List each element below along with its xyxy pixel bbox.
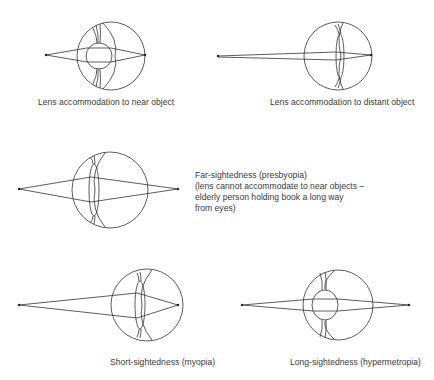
light-rays — [218, 52, 371, 60]
lens-thin — [89, 164, 99, 216]
ciliary-fibers-top — [335, 24, 341, 34]
eye-distant-object — [217, 22, 372, 90]
light-rays — [46, 48, 145, 62]
light-rays — [242, 299, 409, 311]
caption-line: Far-sightedness (presbyopia) — [195, 170, 364, 181]
lens-round — [86, 43, 112, 69]
eye-hypermetropia — [241, 270, 410, 340]
caption-myopia: Short-sightedness (myopia) — [110, 357, 215, 368]
focus-point — [177, 188, 179, 190]
cornea-curve — [103, 23, 116, 89]
object-point — [241, 304, 243, 306]
light-rays — [19, 293, 178, 318]
focus-point — [370, 54, 372, 56]
caption-line: (lens cannot accommodate to near objects… — [195, 181, 364, 192]
lens-thin — [336, 34, 344, 78]
eye-accommodation-diagram: Lens accommodation to near object Lens a… — [0, 0, 434, 380]
cornea-curve — [141, 270, 152, 340]
eyeball — [72, 152, 148, 228]
caption-near-object: Lens accommodation to near object — [38, 97, 174, 108]
ciliary-fibers-bottom — [137, 329, 141, 338]
ciliary-fibers-bottom — [320, 320, 326, 338]
eyeball — [111, 269, 183, 341]
ciliary-fibers-bottom — [335, 78, 341, 88]
eye-myopia — [18, 269, 183, 341]
caption-line: elderly person holding book a long way — [195, 192, 364, 203]
eye-presbyopia — [18, 152, 179, 228]
focus-point — [177, 304, 179, 306]
caption-line: from eyes) — [195, 203, 364, 214]
caption-presbyopia: Far-sightedness (presbyopia) (lens canno… — [195, 170, 364, 214]
cornea-curve — [94, 153, 105, 227]
object-point — [18, 188, 20, 190]
focus-point — [408, 304, 410, 306]
ciliary-fibers-top — [137, 272, 141, 281]
lens-thin — [135, 281, 145, 329]
eyeball — [77, 22, 145, 90]
caption-hypermetropia: Long-sightedness (hypermetropia) — [290, 357, 421, 368]
object-point — [45, 54, 47, 56]
lens-round — [312, 290, 338, 320]
object-point — [18, 304, 20, 306]
caption-distant-object: Lens accommodation to distant object — [270, 97, 414, 108]
focus-point — [144, 54, 146, 56]
ciliary-fibers-top — [320, 272, 326, 290]
eye-near-object — [45, 22, 146, 90]
object-point — [217, 55, 219, 57]
